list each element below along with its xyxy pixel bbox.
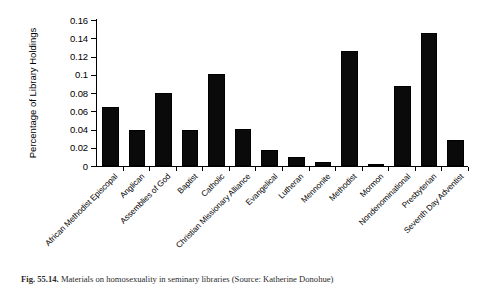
plot-area bbox=[97, 20, 467, 166]
x-axis-tick bbox=[388, 167, 389, 171]
x-axis-tick bbox=[202, 167, 203, 171]
y-axis-tick: 0.04 bbox=[91, 130, 96, 131]
x-axis-tick bbox=[441, 167, 442, 171]
y-axis-tick-label: 0.1 bbox=[75, 71, 88, 81]
x-axis-tick bbox=[415, 167, 416, 171]
x-axis-tick bbox=[176, 167, 177, 171]
x-axis-label-text: Baptist bbox=[176, 172, 200, 196]
y-axis-tick: 0.14 bbox=[91, 38, 96, 39]
x-axis-label-text: African Methodist Episcopal bbox=[44, 172, 120, 248]
y-axis-tick: 0 bbox=[91, 166, 96, 167]
x-axis-tick bbox=[362, 167, 363, 171]
bar bbox=[368, 164, 384, 166]
x-axis-label: African Methodist Episcopal bbox=[44, 172, 120, 248]
y-axis-tick-label: 0.12 bbox=[70, 52, 88, 62]
y-axis-tick: 0.02 bbox=[91, 148, 96, 149]
bar bbox=[421, 33, 437, 166]
y-axis-tick-label: 0.08 bbox=[70, 89, 88, 99]
bar bbox=[155, 93, 171, 166]
y-axis-tick: 0.06 bbox=[91, 111, 96, 112]
y-axis-title: Percentage of Library Holdings bbox=[27, 20, 39, 166]
y-axis-tick-label: 0.14 bbox=[70, 34, 88, 44]
bar bbox=[447, 140, 463, 166]
figure-container: Percentage of Library Holdings 00.020.04… bbox=[0, 0, 479, 288]
x-axis-tick bbox=[335, 167, 336, 171]
x-axis-tick bbox=[149, 167, 150, 171]
x-axis-label: Baptist bbox=[176, 172, 200, 196]
x-axis-tick bbox=[255, 167, 256, 171]
y-axis-tick-label: 0.16 bbox=[70, 16, 88, 26]
figure-number: Fig. 55.14. bbox=[21, 274, 59, 284]
bar bbox=[235, 129, 251, 166]
y-axis-tick: 0.16 bbox=[91, 20, 96, 21]
bar bbox=[261, 150, 277, 166]
bar bbox=[394, 86, 410, 166]
figure-caption: Fig. 55.14. Materials on homosexuality i… bbox=[21, 274, 461, 285]
bar bbox=[315, 162, 331, 166]
y-axis-tick-label: 0.04 bbox=[70, 125, 88, 135]
bar bbox=[208, 74, 224, 166]
figure-caption-text: Materials on homosexuality in seminary l… bbox=[61, 274, 334, 284]
y-axis-tick-label: 0 bbox=[83, 162, 88, 172]
bar bbox=[288, 157, 304, 166]
x-axis-tick bbox=[468, 167, 469, 171]
bar bbox=[341, 51, 357, 166]
x-axis-tick bbox=[282, 167, 283, 171]
x-axis-label: Assemblies of God bbox=[119, 172, 173, 226]
x-axis-tick bbox=[123, 167, 124, 171]
y-axis-tick: 0.1 bbox=[91, 75, 96, 76]
bar bbox=[129, 130, 145, 167]
y-axis-tick-label: 0.06 bbox=[70, 107, 88, 117]
y-axis-tick: 0.12 bbox=[91, 57, 96, 58]
bar bbox=[102, 107, 118, 166]
y-axis-tick-label: 0.02 bbox=[70, 144, 88, 154]
x-axis-tick bbox=[229, 167, 230, 171]
x-axis-tick bbox=[309, 167, 310, 171]
x-axis-label: Methodist bbox=[328, 172, 359, 203]
y-axis-tick: 0.08 bbox=[91, 93, 96, 94]
bar bbox=[182, 130, 198, 167]
x-axis-label-text: Assemblies of God bbox=[119, 172, 173, 226]
x-axis-label-text: Methodist bbox=[328, 172, 359, 203]
